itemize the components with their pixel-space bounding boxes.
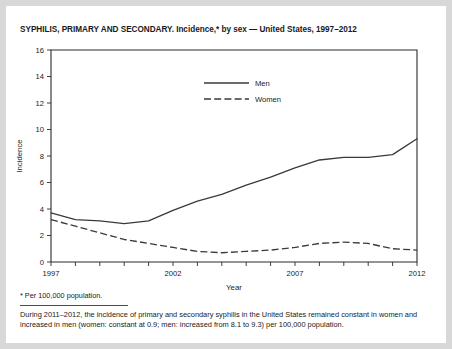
y-tick-label: 10	[36, 125, 44, 134]
plot-frame	[51, 50, 417, 262]
x-tick-label: 2012	[409, 269, 426, 278]
x-tick-label: 2007	[287, 269, 304, 278]
chart-legend: MenWomen	[204, 79, 281, 104]
legend-label-men: Men	[255, 79, 270, 88]
y-tick-label: 2	[40, 231, 44, 240]
series-group	[51, 139, 417, 253]
y-tick-label: 4	[40, 205, 44, 214]
legend-label-women: Women	[255, 95, 281, 104]
y-tick-label: 6	[40, 178, 44, 187]
footnote-divider	[20, 305, 128, 306]
figure-panel: SYPHILIS, PRIMARY AND SECONDARY. Inciden…	[6, 6, 446, 343]
footnote-per-population: * Per 100,000 population.	[20, 291, 102, 300]
y-tick-label: 14	[36, 72, 44, 81]
series-line-men	[51, 139, 417, 224]
y-tick-label: 12	[36, 99, 44, 108]
x-axis-title: Year	[226, 283, 242, 292]
x-tick-label: 1997	[43, 269, 60, 278]
y-tick-label: 16	[36, 46, 44, 55]
series-line-women	[51, 220, 417, 253]
x-tick-label: 2002	[165, 269, 182, 278]
y-tick-label: 0	[40, 258, 44, 267]
y-tick-label: 8	[40, 152, 44, 161]
y-axis-title: Incidence	[15, 139, 24, 172]
trend-note: During 2011–2012, the incidence of prima…	[20, 310, 432, 331]
